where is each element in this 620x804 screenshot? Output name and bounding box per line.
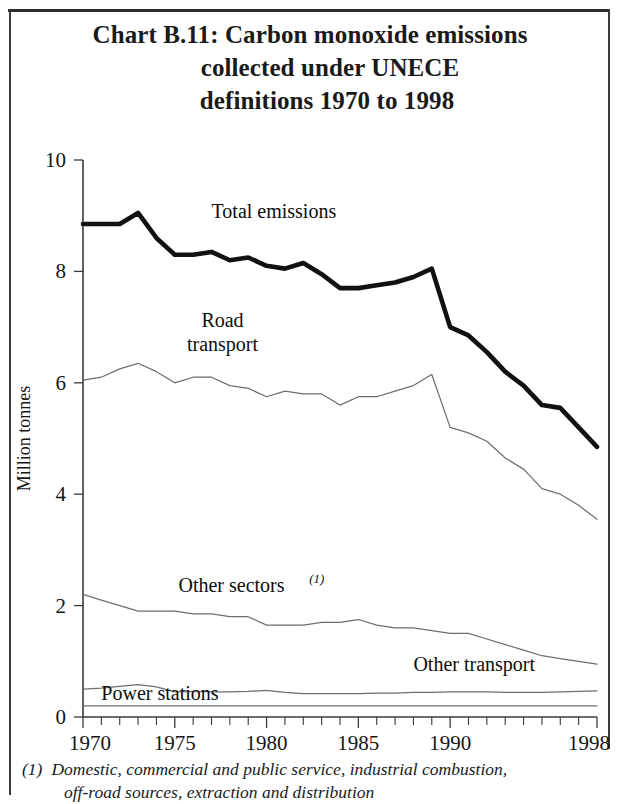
footnote: (1) Domestic, commercial and public serv… — [22, 758, 606, 804]
series-inline-labels: Total emissionsRoadtransportOther sector… — [101, 200, 535, 704]
x-tick-label: 1980 — [246, 731, 288, 755]
chart-title-line-3: definitions 1970 to 1998 — [14, 84, 606, 117]
x-axis-ticks — [83, 717, 597, 728]
chart-title-line-2: collected under UNECE — [14, 51, 606, 84]
x-tick-label: 1975 — [154, 731, 196, 755]
y-tick-label: 8 — [56, 259, 67, 283]
y-axis-tick-labels: 0246810 — [45, 148, 67, 729]
y-axis-title: Million tonnes — [14, 386, 34, 492]
y-tick-label: 6 — [56, 371, 67, 395]
x-tick-label: 1998 — [568, 731, 610, 755]
y-tick-label: 2 — [56, 594, 67, 618]
series-label-other-sectors-superscript: (1) — [309, 571, 324, 586]
y-axis-title-text: Million tonnes — [14, 386, 34, 492]
series-line-road-transport — [83, 363, 597, 519]
footnote-row: (1) Domestic, commercial and public serv… — [22, 758, 606, 781]
chart-title-line-1: Chart B.11: Carbon monoxide emissions — [14, 18, 606, 51]
x-tick-label: 1990 — [429, 731, 471, 755]
y-tick-label: 10 — [45, 148, 66, 172]
footnote-line-1: Domestic, commercial and public service,… — [51, 758, 606, 781]
series-lines — [83, 213, 597, 706]
page-frame-top-rule — [8, 9, 610, 12]
chart-title: Chart B.11: Carbon monoxide emissions co… — [14, 18, 606, 117]
chart-plot-area: 0246810 197019751980198519901998 Million… — [0, 140, 620, 755]
series-label-other-sectors: Other sectors — [178, 574, 284, 596]
footnote-marker: (1) — [22, 758, 51, 781]
series-line-total-emissions — [83, 213, 597, 447]
y-axis-ticks — [74, 160, 83, 717]
series-label-power-stations: Power stations — [101, 682, 218, 704]
footnote-line-2: off-road sources, extraction and distrib… — [22, 781, 606, 804]
x-axis-tick-labels: 197019751980198519901998 — [69, 731, 610, 755]
line-chart-svg: 0246810 197019751980198519901998 Million… — [0, 140, 620, 755]
x-tick-label: 1985 — [337, 731, 379, 755]
x-tick-label: 1970 — [69, 731, 111, 755]
y-tick-label: 4 — [56, 482, 67, 506]
series-label-total-emissions: Total emissions — [212, 200, 337, 222]
y-tick-label: 0 — [56, 705, 67, 729]
series-label-road-transport-line2: transport — [187, 333, 259, 356]
series-label-road-transport: Road — [201, 309, 243, 331]
series-label-other-transport: Other transport — [413, 653, 535, 676]
